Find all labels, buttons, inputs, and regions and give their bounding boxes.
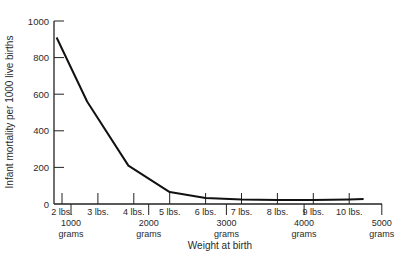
x-tick-sublabel-grams: grams (136, 229, 162, 239)
x-tick-sublabel-grams: grams (369, 229, 395, 239)
data-series (57, 38, 364, 201)
mortality-line (57, 38, 364, 201)
y-tick-label: 800 (33, 52, 49, 63)
y-axis: 02004006008001000 (28, 16, 64, 210)
x-tick-label-grams: 2000 (139, 218, 159, 228)
x-tick-label-lbs: 9 lbs. (303, 207, 325, 217)
x-tick-label-lbs: 6 lbs. (195, 207, 217, 217)
x-tick-label-lbs: 7 lbs. (231, 207, 253, 217)
x-tick-label-grams: 4000 (294, 218, 314, 228)
x-tick-sublabel-grams: grams (214, 229, 240, 239)
x-tick-label-lbs: 8 lbs. (267, 207, 289, 217)
y-tick-label: 200 (33, 162, 49, 173)
x-tick-sublabel-grams: grams (58, 229, 84, 239)
x-tick-label-lbs: 10 lbs. (336, 207, 363, 217)
x-tick-label-lbs: 5 lbs. (159, 207, 181, 217)
y-tick-label: 600 (33, 89, 49, 100)
x-tick-label-grams: 3000 (216, 218, 236, 228)
x-tick-label-lbs: 3 lbs. (87, 207, 109, 217)
mortality-chart: 02004006008001000 2 lbs.3 lbs.4 lbs.5 lb… (0, 0, 409, 264)
x-axis-label: Weight at birth (188, 240, 252, 251)
x-tick-label-grams: 5000 (372, 218, 392, 228)
x-tick-sublabel-grams: grams (292, 229, 318, 239)
y-axis-label: Infant mortality per 1000 live births (4, 36, 15, 189)
x-tick-label-lbs: 2 lbs. (51, 207, 73, 217)
y-tick-label: 400 (33, 125, 49, 136)
y-tick-label: 0 (44, 199, 49, 210)
y-tick-label: 1000 (28, 16, 49, 27)
x-tick-label-grams: 1000 (61, 218, 81, 228)
x-tick-label-lbs: 4 lbs. (123, 207, 145, 217)
